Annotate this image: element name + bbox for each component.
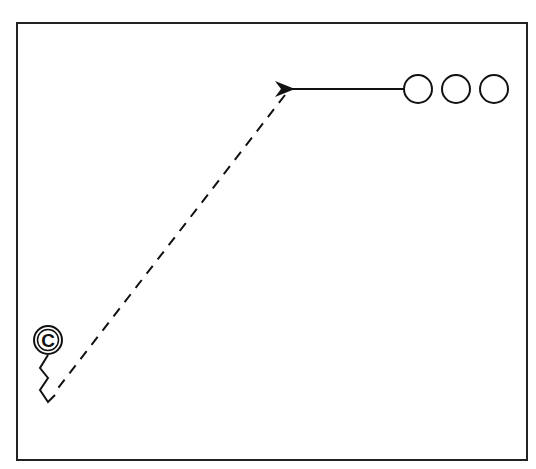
dashed-route (55, 95, 285, 392)
center-marker-label: C (41, 330, 55, 351)
player-circle-2 (442, 75, 470, 103)
center-marker: C (34, 326, 62, 354)
player-circle-1 (404, 75, 432, 103)
zigzag-motion (40, 355, 55, 402)
play-diagram: C (0, 0, 536, 469)
player-circle-3 (480, 75, 508, 103)
